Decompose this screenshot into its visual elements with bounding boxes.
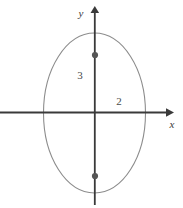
focus-point-upper bbox=[92, 52, 98, 58]
annotation-value-three: 3 bbox=[77, 69, 83, 81]
ellipse-figure: y x 3 2 bbox=[0, 0, 183, 208]
coordinate-plane-graphic: y x 3 2 bbox=[0, 0, 183, 208]
focus-point-lower bbox=[92, 173, 98, 179]
x-axis-arrowhead bbox=[166, 108, 174, 117]
x-axis-label: x bbox=[169, 118, 175, 130]
y-axis-label: y bbox=[78, 7, 84, 19]
annotation-value-two: 2 bbox=[116, 95, 122, 107]
y-axis-arrowhead bbox=[91, 6, 100, 13]
